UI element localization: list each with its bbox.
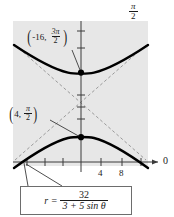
point-label-upper-r: -16 xyxy=(32,32,44,42)
equation-lhs: r = xyxy=(44,195,57,206)
vertical-axis-label-numerator: π xyxy=(129,2,138,11)
point-label-upper-close-paren: ) xyxy=(63,27,67,46)
point-label-lower-theta-denominator: 2 xyxy=(24,113,32,122)
leader-line-lower-label xyxy=(50,120,79,136)
equation-numerator: 32 xyxy=(77,190,91,200)
equation-leader-line-right xyxy=(26,164,62,186)
x-tick-label-8: 8 xyxy=(119,168,124,178)
point-label-lower: ( 4 , π 2 ) xyxy=(8,104,38,123)
point-label-upper-theta-numerator: 3π xyxy=(50,28,62,36)
vertical-axis-label-denominator: 2 xyxy=(129,11,138,21)
point-label-lower-open-paren: ( xyxy=(9,104,13,123)
point-label-upper-separator: , xyxy=(44,32,46,42)
equation-denominator: 3 + 5 sin θ xyxy=(60,200,107,211)
equation-leader-lines xyxy=(24,163,62,186)
vertex-point-upper xyxy=(78,70,84,76)
vertical-axis-label: π 2 xyxy=(129,2,138,21)
vertex-point-lower xyxy=(78,134,84,140)
x-tick-label-4: 4 xyxy=(98,168,103,178)
point-label-upper-theta-denominator: 2 xyxy=(52,36,60,45)
leader-lines xyxy=(50,50,80,136)
equation-callout-box: r = 32 3 + 5 sin θ xyxy=(20,186,132,215)
horizontal-axis-arrow xyxy=(152,159,158,164)
horizontal-axis-label: 0 xyxy=(163,156,168,166)
point-label-lower-separator: , xyxy=(19,109,21,119)
point-label-lower-theta-numerator: π xyxy=(24,105,32,113)
point-label-upper: ( -16 , 3π 2 ) xyxy=(26,27,68,46)
polar-graph-figure: π 2 0 4 8 ( -16 , 3π 2 ) ( 4 , π 2 ) r =… xyxy=(0,0,174,217)
point-label-lower-close-paren: ) xyxy=(33,104,37,123)
equation-leader-line-left xyxy=(24,163,28,186)
point-label-upper-open-paren: ( xyxy=(27,27,31,46)
leader-line-upper-label xyxy=(72,50,80,70)
